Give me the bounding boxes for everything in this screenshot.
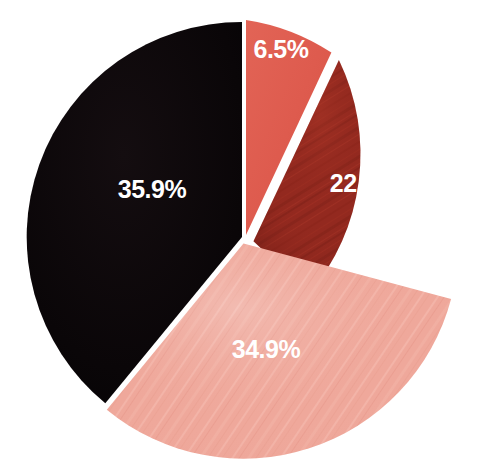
pie-chart-canvas: 6.5% 22.7% 34.9% 35.9% <box>0 0 477 475</box>
pie-label-6-5: 6.5% <box>254 35 309 63</box>
pie-chart-figure: 6.5% 22.7% 34.9% 35.9% <box>0 0 477 475</box>
pie-label-34-9: 34.9% <box>232 335 301 363</box>
pie-label-35-9: 35.9% <box>118 175 187 203</box>
pie-label-22-7: 22.7% <box>330 169 399 197</box>
